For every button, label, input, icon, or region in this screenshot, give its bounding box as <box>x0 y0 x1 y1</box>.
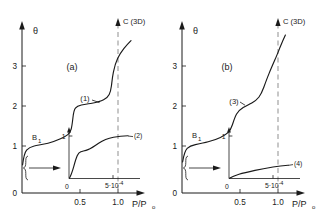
y-axis-label-b: θ <box>193 26 198 36</box>
brace-arrow-b <box>183 156 221 180</box>
asymptote-arrowhead-b <box>275 18 280 26</box>
panel-b-plot: 0 1 2 3 0.5 1.0 θ P/P o C (3D) (b) (3) <box>160 0 320 213</box>
inset-curve-leader-a <box>128 136 133 137</box>
main-curve-label-b: (3) <box>229 97 239 106</box>
inset-curve-b <box>229 165 288 178</box>
x-tick-label-05-a: 0.5 <box>74 198 86 207</box>
main-curve-label-a: (1) <box>80 94 90 103</box>
y-tick-label-2-b: 2 <box>172 102 177 111</box>
inset-x-tick-max-num-b: 5·10 <box>265 182 279 189</box>
inset-x-tick-max-exp-b: -4 <box>279 180 284 186</box>
main-curve-a <box>23 41 131 165</box>
panel-a: 0 1 2 3 0.5 1.0 θ P/P o C (3D) (a) (1) <box>0 0 160 213</box>
inset-x-tick-max-exp-a: -4 <box>119 180 124 186</box>
bpoint-annotation-b: B 1 <box>192 131 202 142</box>
inset-b: 1 0 5·10 -4 (4) <box>222 127 303 190</box>
x-axis-label-a: P/P o <box>132 199 156 210</box>
bpoint-annotation-a: B 1 <box>32 133 42 144</box>
bpoint-label-a: B <box>32 133 37 142</box>
y-tick-label-3-a: 3 <box>12 62 17 71</box>
bpoint-sub-a: 1 <box>38 138 42 144</box>
x-axis-label-text-b: P/P <box>292 199 307 209</box>
asymptote-label-a: C (3D) <box>123 17 146 26</box>
inset-x-tick-zero-b: 0 <box>225 183 229 190</box>
inset-x-tick-max-label-b: 5·10 -4 <box>265 180 283 190</box>
y-tick-label-0-b: 0 <box>172 189 177 198</box>
bpoint-label-b: B <box>192 131 197 140</box>
y-tick-label-1-a: 1 <box>12 142 17 151</box>
panel-a-plot: 0 1 2 3 0.5 1.0 θ P/P o C (3D) (a) (1) <box>0 0 160 213</box>
panel-label-a: (a) <box>67 62 78 72</box>
inset-y-tick-label-b: 1 <box>222 133 226 140</box>
asymptote-arrowhead-a <box>115 18 120 26</box>
x-axis-label-sub-b: o <box>312 204 316 210</box>
inset-y-arrowhead-a <box>67 127 71 133</box>
y-axis-arrowhead-b <box>179 21 185 30</box>
x-axis-label-text-a: P/P <box>132 199 147 209</box>
inset-curve-leader-b <box>288 165 293 166</box>
x-tick-label-05-b: 0.5 <box>234 198 246 207</box>
inset-x-tick-max-label-a: 5·10 -4 <box>105 180 123 190</box>
bpoint-sub-b: 1 <box>198 136 202 142</box>
y-axis-label-a: θ <box>33 26 38 36</box>
x-tick-label-10-b: 1.0 <box>272 198 284 207</box>
inset-x-tick-zero-a: 0 <box>65 183 69 190</box>
x-axis-label-b: P/P o <box>292 199 316 210</box>
x-axis-arrowhead-b <box>297 190 306 196</box>
inset-curve-label-a: (2) <box>134 132 142 140</box>
figure-container: 0 1 2 3 0.5 1.0 θ P/P o C (3D) (a) (1) <box>0 0 320 213</box>
panel-b: 0 1 2 3 0.5 1.0 θ P/P o C (3D) (b) (3) <box>160 0 320 213</box>
inset-x-tick-max-num-a: 5·10 <box>105 182 119 189</box>
x-axis-label-sub-a: o <box>152 204 156 210</box>
panel-label-b: (b) <box>222 62 233 72</box>
main-curve-leader-b <box>240 102 245 105</box>
inset-a: 1 0 5·10 -4 (2) <box>62 127 143 190</box>
inset-y-tick-label-a: 1 <box>62 133 66 140</box>
asymptote-label-b: C (3D) <box>283 17 306 26</box>
x-axis-arrowhead-a <box>137 190 146 196</box>
brace-arrow-a <box>23 156 61 180</box>
y-axis-arrowhead-a <box>19 21 25 30</box>
y-tick-label-2-a: 2 <box>12 102 17 111</box>
y-tick-label-0-a: 0 <box>12 189 17 198</box>
y-tick-label-3-b: 3 <box>172 62 177 71</box>
inset-curve-a <box>69 136 128 178</box>
inset-curve-label-b: (4) <box>294 160 302 168</box>
x-tick-label-10-a: 1.0 <box>112 198 124 207</box>
y-tick-label-1-b: 1 <box>172 142 177 151</box>
